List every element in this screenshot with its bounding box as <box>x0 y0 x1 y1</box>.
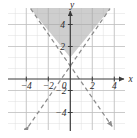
y-axis-label: y <box>69 0 75 10</box>
x-axis-label: x <box>127 74 133 84</box>
coordinate-plane-figure: −4 −2 2 4 0 4 2 −2 −4 x y <box>0 0 137 138</box>
y-tick-label-neg2: −2 <box>55 86 66 96</box>
x-tick-label-2: 2 <box>90 81 95 91</box>
x-tick-label-neg4: −4 <box>21 81 32 91</box>
x-tick-label-neg2: −2 <box>43 81 54 91</box>
y-tick-label-4: 4 <box>60 20 65 30</box>
y-tick-label-neg4: −4 <box>55 108 66 118</box>
graph-svg: −4 −2 2 4 0 4 2 −2 −4 x y <box>0 0 137 138</box>
y-tick-label-2: 2 <box>60 42 65 52</box>
x-tick-label-4: 4 <box>112 81 117 91</box>
